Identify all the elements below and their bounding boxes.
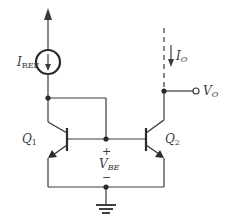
vo-label: VO <box>203 84 219 99</box>
junction-node-output <box>161 88 166 93</box>
q1-label: Q1 <box>22 132 37 147</box>
junction-node-base <box>103 136 108 141</box>
io-current-arrow-icon <box>168 45 174 67</box>
io-label: IO <box>175 49 188 64</box>
vbe-minus-sign: − <box>102 171 111 184</box>
q1-transistor-icon <box>48 122 67 158</box>
iref-current-source-icon <box>36 50 60 74</box>
q2-label: Q2 <box>165 132 180 147</box>
junction-node-left-top <box>45 95 50 100</box>
output-terminal-icon <box>193 88 199 94</box>
supply-arrow-icon <box>44 8 52 20</box>
current-mirror-schematic: IREF IO VO Q1 Q2 + VBE − <box>0 0 227 223</box>
q2-transistor-icon <box>146 120 164 158</box>
junction-node-emitter <box>103 184 108 189</box>
ground-icon <box>96 205 116 213</box>
vbe-label: VBE <box>99 157 120 172</box>
